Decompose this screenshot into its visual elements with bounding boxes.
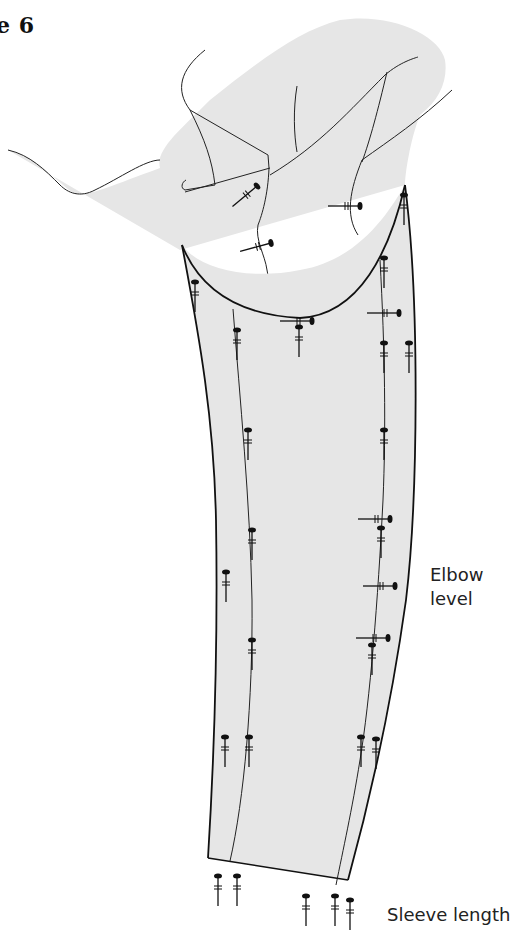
elbow-label-line2: level xyxy=(430,587,484,611)
elbow-label-line1: Elbow xyxy=(430,563,484,587)
sleeve-pattern-diagram xyxy=(0,0,532,937)
sleeve-length-label: Sleeve length xyxy=(387,903,510,927)
elbow-level-label: Elbow level xyxy=(430,563,484,611)
